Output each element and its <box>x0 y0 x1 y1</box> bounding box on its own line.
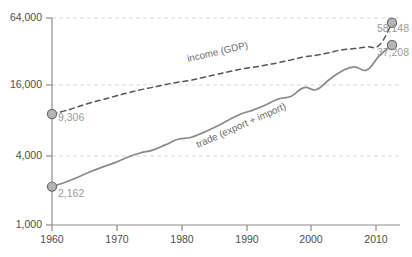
x-tick-label-1990: 1990 <box>235 233 259 245</box>
label-trade-start-value: 2,162 <box>58 187 84 199</box>
y-tick-label-16000: 16,000 <box>10 78 42 90</box>
y-tick-label-4000: 4,000 <box>16 149 42 161</box>
chart-container: 64,000 16,000 4,000 1,000 1960 1970 1980… <box>0 0 412 257</box>
label-income-start-value: 9,306 <box>58 111 84 123</box>
line-chart: 64,000 16,000 4,000 1,000 1960 1970 1980… <box>0 0 412 257</box>
x-tick-label-2000: 2000 <box>299 233 323 245</box>
marker-income-start <box>47 109 56 118</box>
chart-background <box>0 0 412 257</box>
x-tick-label-2010: 2010 <box>364 233 388 245</box>
y-tick-label-64000: 64,000 <box>10 11 42 23</box>
label-trade-end-value: 37,208 <box>377 46 409 58</box>
x-tick-label-1980: 1980 <box>170 233 194 245</box>
x-tick-label-1970: 1970 <box>105 233 129 245</box>
y-tick-label-1000: 1,000 <box>16 218 42 230</box>
label-income-end-value: 58,148 <box>377 22 409 34</box>
marker-trade-start <box>47 182 56 191</box>
x-tick-label-1960: 1960 <box>40 233 64 245</box>
